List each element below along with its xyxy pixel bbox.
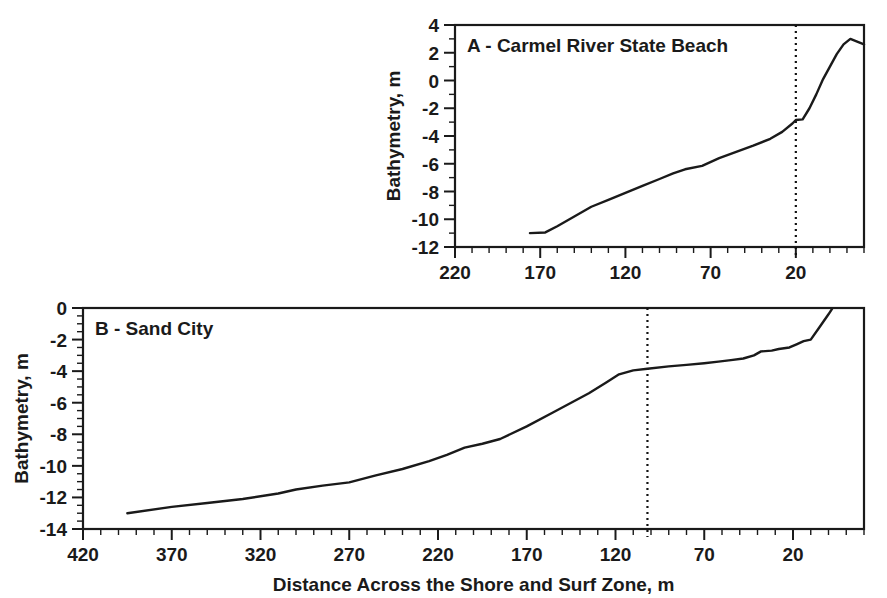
x-tick-label: 170	[524, 262, 556, 283]
y-tick-label: 0	[56, 298, 67, 319]
y-tick-label: -6	[50, 393, 67, 414]
x-tick-label: 20	[782, 544, 803, 565]
y-tick-label: -8	[422, 182, 439, 203]
x-tick-label: 270	[333, 544, 365, 565]
x-tick-label: 70	[694, 544, 715, 565]
x-tick-label: 120	[600, 544, 632, 565]
x-axis-title: Distance Across the Shore and Surf Zone,…	[273, 574, 675, 595]
plot-frame	[83, 308, 864, 529]
panel-a: 420-2-4-6-8-10-122201701207020A - Carmel…	[383, 15, 864, 283]
y-tick-label: -4	[422, 126, 439, 147]
y-axis-title-a: Bathymetry, m	[383, 71, 404, 202]
y-axis-ticks: 420-2-4-6-8-10-12	[412, 15, 455, 258]
x-tick-label: 220	[422, 544, 454, 565]
panel-b: 0-2-4-6-8-10-12-144203703202702201701207…	[11, 298, 864, 595]
x-tick-label: 120	[610, 262, 642, 283]
x-tick-label: 420	[67, 544, 99, 565]
y-tick-label: 4	[428, 15, 439, 36]
y-tick-label: 2	[428, 43, 439, 64]
figure-canvas: 420-2-4-6-8-10-122201701207020A - Carmel…	[0, 0, 887, 598]
y-tick-label: -10	[40, 456, 67, 477]
x-tick-label: 370	[156, 544, 188, 565]
y-tick-label: -10	[412, 209, 439, 230]
y-tick-label: -14	[40, 519, 68, 540]
y-axis-title-b: Bathymetry, m	[11, 353, 32, 484]
y-tick-label: -4	[50, 361, 67, 382]
y-tick-label: -8	[50, 424, 67, 445]
x-tick-label: 220	[439, 262, 471, 283]
y-tick-label: -12	[40, 487, 67, 508]
y-tick-label: -2	[422, 98, 439, 119]
x-tick-label: 320	[245, 544, 277, 565]
panel-label-a: A - Carmel River State Beach	[467, 35, 728, 56]
profile-line-b	[127, 309, 832, 513]
x-tick-label: 170	[511, 544, 543, 565]
y-tick-label: -2	[50, 330, 67, 351]
x-tick-label: 70	[700, 262, 721, 283]
bathymetry-figure: 420-2-4-6-8-10-122201701207020A - Carmel…	[0, 0, 887, 598]
x-tick-label: 20	[785, 262, 806, 283]
plot-frame	[455, 25, 864, 247]
y-axis-ticks: 0-2-4-6-8-10-12-14	[40, 298, 83, 540]
profile-line-a	[530, 39, 864, 233]
panel-label-b: B - Sand City	[95, 318, 214, 339]
y-tick-label: -6	[422, 154, 439, 175]
x-axis-ticks: 4203703202702201701207020	[67, 529, 803, 565]
y-tick-label: -12	[412, 237, 439, 258]
y-tick-label: 0	[428, 71, 439, 92]
x-axis-ticks: 2201701207020	[439, 247, 806, 283]
